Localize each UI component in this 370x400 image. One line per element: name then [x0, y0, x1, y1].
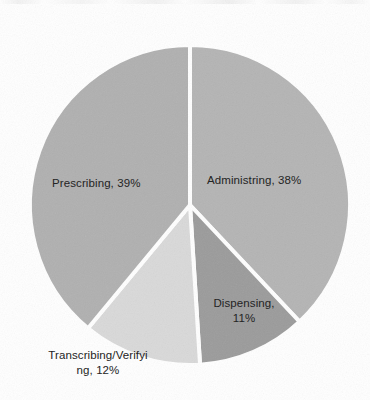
pie-label-prescribing: Prescribing, 39%	[52, 176, 141, 191]
pie-label-transcribing-verifying-line-1: Transcribing/Verifyi	[18, 348, 178, 363]
pie-label-dispensing-line-1: Dispensing,	[201, 296, 287, 311]
pie-label-prescribing-line-1: Prescribing, 39%	[52, 176, 141, 191]
pie-slice-group	[30, 45, 350, 365]
pie-label-administring-line-1: Administring, 38%	[207, 173, 301, 188]
pie-label-administring: Administring, 38%	[207, 173, 301, 188]
pie-chart-figure: Administring, 38% Prescribing, 39% Dispe…	[0, 0, 370, 400]
pie-label-dispensing-line-2: 11%	[201, 311, 287, 326]
pie-chart-svg	[0, 0, 370, 400]
pie-label-transcribing-verifying: Transcribing/Verifyi ng, 12%	[18, 348, 178, 378]
pie-label-transcribing-verifying-line-2: ng, 12%	[18, 363, 178, 378]
pie-label-dispensing: Dispensing, 11%	[201, 296, 287, 326]
